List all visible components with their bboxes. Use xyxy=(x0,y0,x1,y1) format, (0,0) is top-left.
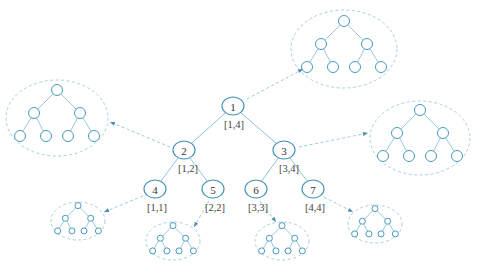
inner-tree-5 xyxy=(146,222,200,260)
pointer-from-3 xyxy=(299,132,368,147)
arrow-head-icon xyxy=(110,122,115,126)
node-label: 4 xyxy=(152,184,158,196)
mini-node xyxy=(376,62,387,73)
arrow-head-icon xyxy=(271,217,276,222)
tree-node-5: 5[2,2] xyxy=(202,180,225,213)
mini-node xyxy=(176,248,182,254)
node-range: [1,2] xyxy=(178,163,198,174)
mini-node xyxy=(339,16,350,27)
node-range: [2,2] xyxy=(205,202,225,213)
node-range: [3,3] xyxy=(248,202,268,213)
pointer-from-1 xyxy=(247,69,303,99)
mini-node xyxy=(170,223,176,229)
node-label: 2 xyxy=(181,145,187,157)
mini-node xyxy=(392,128,403,139)
inner-tree-1 xyxy=(291,10,397,88)
tree-node-4: 4[1,1] xyxy=(144,180,167,213)
mini-node xyxy=(41,131,52,142)
mini-node xyxy=(285,248,291,254)
mini-node xyxy=(157,235,163,241)
tree-node-2: 2[1,2] xyxy=(173,141,198,174)
mini-node xyxy=(29,108,40,119)
mini-node xyxy=(366,231,372,237)
inner-trees-layer xyxy=(6,10,470,260)
mini-node xyxy=(378,151,389,162)
mini-node xyxy=(69,228,75,234)
arrow-head-icon xyxy=(194,222,198,227)
diagram-canvas: 1[1,4]2[1,2]3[3,4]4[1,1]5[2,2]6[3,3]7[4,… xyxy=(0,0,478,270)
node-range: [3,4] xyxy=(279,163,299,174)
node-range: [4,4] xyxy=(305,202,325,213)
mini-node xyxy=(88,215,94,221)
mini-node xyxy=(15,131,26,142)
mini-node xyxy=(89,131,100,142)
node-range: [1,1] xyxy=(147,202,167,213)
mini-node xyxy=(392,231,398,237)
mini-node xyxy=(302,62,313,73)
dashed-pointer xyxy=(110,122,170,147)
mini-node xyxy=(164,248,170,254)
mini-node xyxy=(150,248,156,254)
node-label: 6 xyxy=(253,184,259,196)
mini-node xyxy=(75,108,86,119)
segment-tree-diagram: 1[1,4]2[1,2]3[3,4]4[1,1]5[2,2]6[3,3]7[4,… xyxy=(0,0,478,270)
tree-node-3: 3[3,4] xyxy=(273,141,299,174)
mini-node xyxy=(415,105,426,116)
arrow-head-icon xyxy=(348,208,353,212)
mini-node xyxy=(279,223,285,229)
mini-node xyxy=(328,62,339,73)
pointer-from-2 xyxy=(110,122,170,147)
pointer-from-7 xyxy=(324,197,353,212)
node-label: 5 xyxy=(210,184,216,196)
inner-tree-2 xyxy=(6,80,108,156)
mini-node xyxy=(359,218,365,224)
mini-node xyxy=(426,151,437,162)
mini-node xyxy=(62,215,68,221)
inner-tree-4 xyxy=(51,202,105,240)
mini-node xyxy=(273,248,279,254)
tree-node-6: 6[3,3] xyxy=(245,180,268,213)
dashed-pointer xyxy=(299,133,368,147)
dashed-pointer xyxy=(247,69,303,99)
mini-node xyxy=(372,206,378,212)
mini-node xyxy=(316,39,327,50)
inner-tree-3 xyxy=(370,101,470,175)
mini-node xyxy=(259,248,265,254)
arrow-head-icon xyxy=(104,208,109,212)
mini-node xyxy=(55,228,61,234)
pointer-from-4 xyxy=(104,196,143,212)
mini-node xyxy=(352,231,358,237)
node-label: 3 xyxy=(281,145,287,157)
mini-node xyxy=(52,85,63,96)
arrow-head-icon xyxy=(363,132,368,136)
mini-node xyxy=(404,151,415,162)
node-label: 1 xyxy=(230,101,236,113)
inner-tree-6 xyxy=(255,222,309,260)
mini-node xyxy=(81,228,87,234)
mini-node xyxy=(95,228,101,234)
node-range: [1,4] xyxy=(224,119,244,130)
mini-node xyxy=(378,231,384,237)
tree-node-7: 7[4,4] xyxy=(302,180,325,213)
dashed-pointer xyxy=(104,196,143,212)
mini-node xyxy=(75,203,81,209)
mini-node xyxy=(350,62,361,73)
mini-node xyxy=(266,235,272,241)
mini-node xyxy=(190,248,196,254)
mini-node xyxy=(292,235,298,241)
node-label: 7 xyxy=(310,184,316,196)
mini-node xyxy=(452,151,463,162)
mini-node xyxy=(362,39,373,50)
mini-node xyxy=(299,248,305,254)
nodes-layer: 1[1,4]2[1,2]3[3,4]4[1,1]5[2,2]6[3,3]7[4,… xyxy=(144,97,325,213)
mini-node xyxy=(385,218,391,224)
mini-node xyxy=(183,235,189,241)
pointers-layer xyxy=(104,69,368,227)
inner-tree-7 xyxy=(348,205,402,243)
mini-node xyxy=(63,131,74,142)
mini-node xyxy=(438,128,449,139)
